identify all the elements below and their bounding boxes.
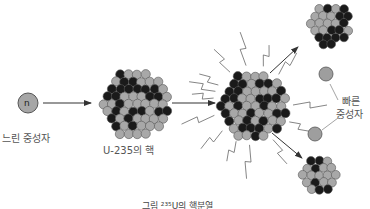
u235-nucleus-icon <box>99 70 172 139</box>
diagram-canvas <box>0 0 370 209</box>
fission-fragment-bottom-icon <box>298 156 340 194</box>
neutron-symbol: n <box>24 97 30 109</box>
u235-nucleus-label: U-235의 핵 <box>103 145 154 157</box>
arrow-to-fragment-bottom <box>272 133 302 158</box>
fast-neutron-2-icon <box>308 127 322 141</box>
fast-neutron-1-icon <box>319 67 333 81</box>
fission-fragment-top-icon <box>306 4 352 49</box>
slow-neutron-label: 느린 중성자 <box>2 133 50 145</box>
splitting-nucleus-icon <box>216 72 290 141</box>
pointer-line-1 <box>330 84 338 100</box>
figure-caption: 그림 ²³⁵U의 핵분열 <box>142 199 213 209</box>
fast-neutron-label-line1: 빠른 <box>342 96 360 108</box>
fast-neutron-label-line2: 중성자 <box>336 109 363 121</box>
arrow-to-fragment-top <box>270 47 298 73</box>
fission-diagram: n 느린 중성자 U-235의 핵 빠른 중성자 그림 ²³⁵U의 핵분열 <box>0 0 370 209</box>
